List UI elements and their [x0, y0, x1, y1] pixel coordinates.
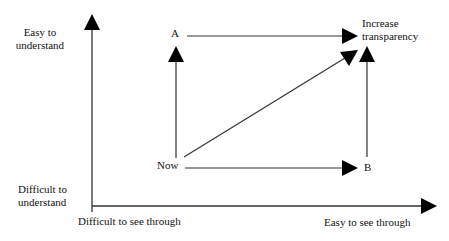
goal-label-line2: transparency [362, 30, 418, 43]
arrowhead-icon [342, 160, 358, 176]
arrowhead-icon [359, 46, 375, 62]
x-axis [92, 198, 437, 214]
y-bottom-label-line1: Difficult to [18, 183, 67, 196]
y-axis-top-label: Easy to understand [14, 26, 66, 52]
edge-now-to-goal [184, 50, 358, 157]
y-bottom-label-line2: understand [18, 196, 67, 209]
edge-now-to-a [168, 46, 184, 158]
arrowhead-icon [340, 50, 358, 66]
edge-now-to-b [185, 160, 358, 176]
edge-a-to-goal [187, 28, 358, 44]
y-top-label-line2: understand [14, 39, 66, 52]
x-axis-left-label: Difficult to see through [78, 215, 181, 228]
node-a-label: A [171, 27, 179, 40]
node-now-label: Now [157, 159, 178, 172]
x-axis-right-label: Easy to see through [324, 216, 410, 229]
x-axis-arrowhead-icon [421, 198, 437, 214]
node-b-label: B [364, 161, 371, 174]
node-goal-label: Increase transparency [362, 17, 418, 43]
arrowhead-icon [342, 28, 358, 44]
y-axis-bottom-label: Difficult to understand [18, 183, 67, 209]
y-top-label-line1: Easy to [14, 26, 66, 39]
arrowhead-icon [168, 46, 184, 62]
edge-b-to-goal [359, 46, 375, 157]
goal-label-line1: Increase [362, 17, 418, 30]
y-axis [84, 14, 100, 212]
y-axis-arrowhead-icon [84, 14, 100, 30]
